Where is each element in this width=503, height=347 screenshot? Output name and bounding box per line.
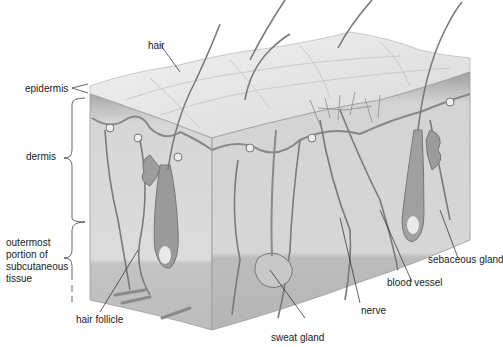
skin-diagram: hair epidermis dermis outermost portion … [0, 0, 503, 347]
label-dermis: dermis [26, 151, 56, 163]
label-epidermis: epidermis [25, 83, 68, 95]
label-nerve: nerve [361, 305, 386, 317]
label-sebaceous-gland: sebaceous gland [428, 254, 503, 266]
label-blood-vessel: blood vessel [387, 277, 443, 289]
label-hair-follicle: hair follicle [76, 314, 123, 326]
skin-illustration [0, 0, 503, 347]
label-sweat-gland: sweat gland [271, 332, 324, 344]
label-hair: hair [148, 40, 165, 52]
label-subcutaneous: outermost portion of subcutaneous tissue [6, 237, 76, 285]
